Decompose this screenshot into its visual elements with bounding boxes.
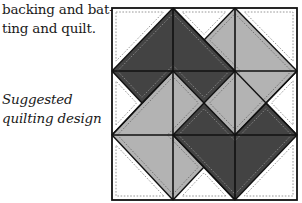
quilt-block-diagram [0,0,302,203]
